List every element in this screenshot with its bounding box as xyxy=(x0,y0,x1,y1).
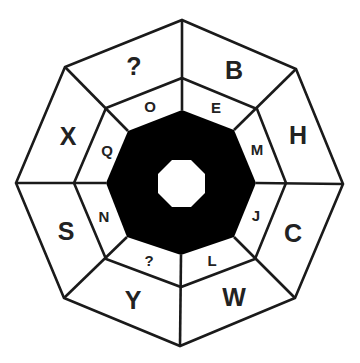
outer-segment-bottom-left-label: Y xyxy=(125,286,142,314)
octagon-puzzle-diagram: B H C W Y S X ? E M J L ? N Q O xyxy=(0,0,360,363)
inner-segment-bottom-left-label: ? xyxy=(144,252,153,269)
center-hole-octagon xyxy=(158,160,205,207)
outer-segment-left-lower-label: S xyxy=(58,217,75,245)
outer-segment-right-lower-label: C xyxy=(284,219,302,247)
inner-segment-right-upper-label: M xyxy=(251,141,264,158)
outer-segment-bottom-right-label: W xyxy=(222,283,246,311)
outer-segment-left-upper-label: X xyxy=(60,122,77,150)
outer-segment-top-left-label: ? xyxy=(126,52,141,80)
inner-segment-left-upper-label: Q xyxy=(101,142,113,159)
inner-segment-bottom-right-label: L xyxy=(207,252,216,269)
inner-segment-top-right-label: E xyxy=(211,99,221,116)
inner-segment-top-left-label: O xyxy=(144,98,156,115)
inner-segment-left-lower-label: N xyxy=(99,208,110,225)
outer-segment-right-upper-label: H xyxy=(289,121,307,149)
inner-segment-right-lower-label: J xyxy=(252,207,260,224)
outer-segment-top-right-label: B xyxy=(225,56,243,84)
